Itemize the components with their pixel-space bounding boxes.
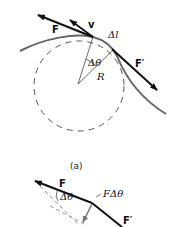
angle-label: Δθ [87, 57, 101, 68]
caption-a: (a) [70, 161, 83, 171]
change-leader-line [96, 194, 101, 197]
force-label-b: F [59, 178, 66, 189]
force-arrow [38, 15, 93, 37]
force-prime-arrow [112, 49, 157, 90]
force-prime-label: F′ [135, 58, 145, 69]
radius-label: R [96, 71, 105, 82]
dashed-circle [34, 41, 124, 131]
force-prime-label-b: F′ [123, 215, 133, 226]
angle-arc-b [56, 191, 58, 201]
figure-canvas: F v Δl F′ Δθ R (a) F Δθ FΔθ F′ [0, 0, 172, 227]
force-label: F [52, 24, 59, 35]
force-prime-line-b [92, 203, 122, 227]
dashed-line-2 [50, 206, 84, 224]
angle-label-b: Δθ [59, 191, 73, 202]
change-arrow [83, 204, 92, 222]
trajectory-curve [20, 36, 166, 114]
change-label: FΔθ [102, 188, 123, 199]
part-b-diagram: F Δθ FΔθ F′ [35, 178, 133, 227]
velocity-label: v [88, 19, 95, 30]
arc-length-label: Δl [107, 29, 118, 40]
part-a-diagram: F v Δl F′ Δθ R (a) [20, 15, 166, 171]
